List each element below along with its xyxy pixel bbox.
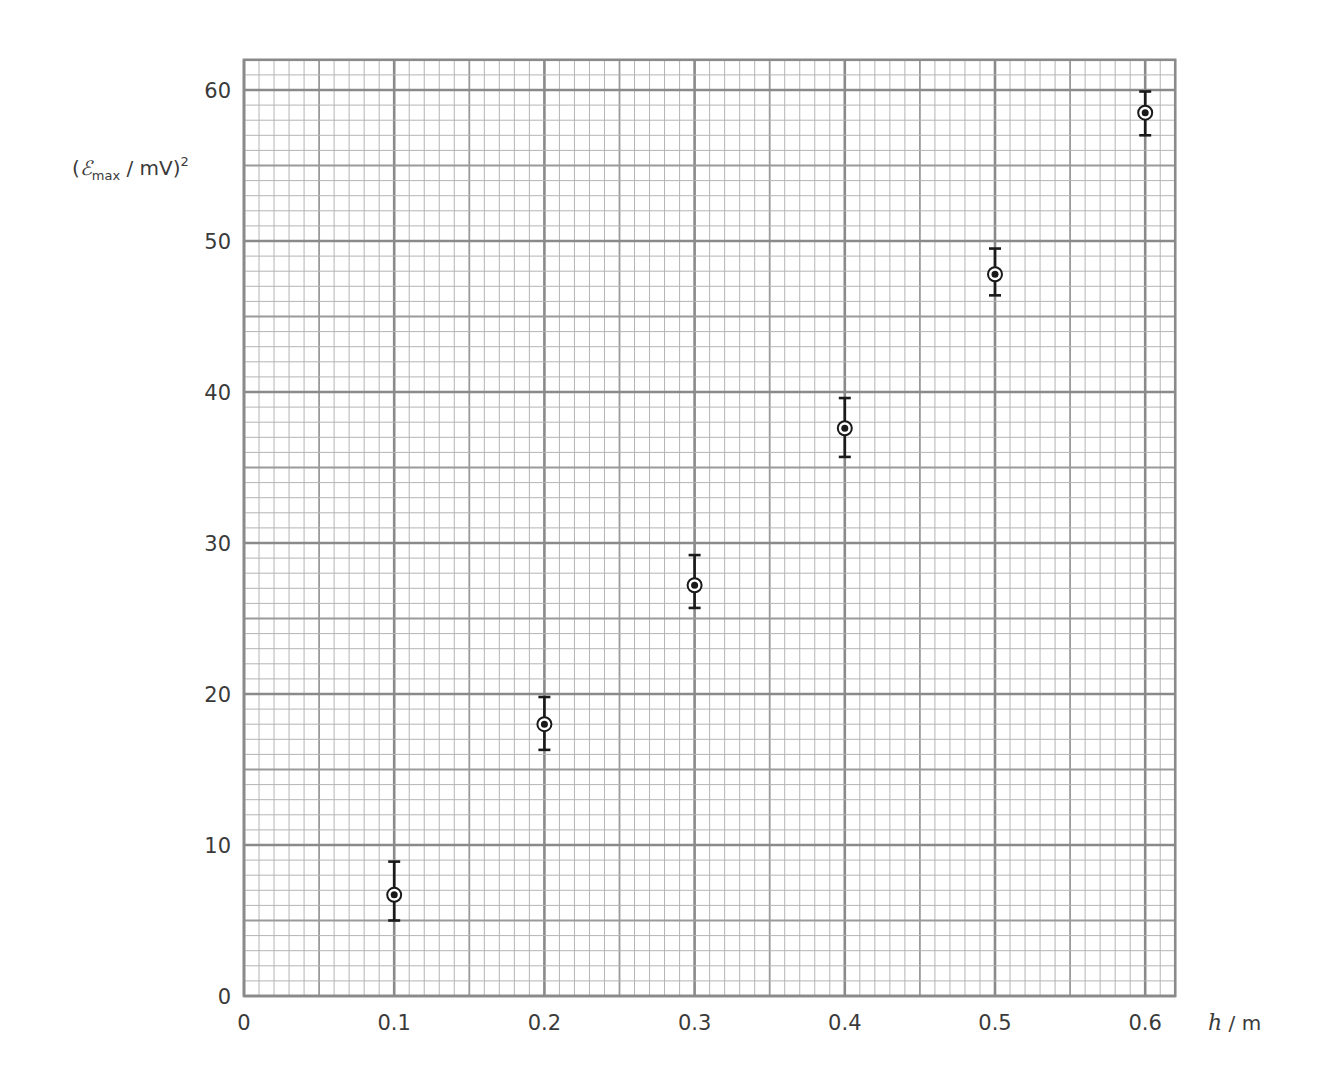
data-point [988,249,1002,296]
data-point [387,862,401,921]
x-tick-label: 0.4 [828,1011,861,1035]
marker-dot-icon [992,271,999,278]
x-tick-label: 0.5 [978,1011,1011,1035]
y-tick-label: 40 [204,381,231,405]
y-tick-label: 0 [218,985,231,1009]
y-tick-label: 10 [204,834,231,858]
x-tick-label: 0.6 [1128,1011,1161,1035]
y-tick-label: 20 [204,683,231,707]
y-tick-label: 60 [204,79,231,103]
y-tick-label: 30 [204,532,231,556]
marker-dot-icon [841,425,848,432]
x-tick-label: 0.1 [377,1011,410,1035]
x-tick-label: 0.2 [528,1011,561,1035]
graph-paper-grid [244,60,1175,996]
y-tick-label: 50 [204,230,231,254]
data-point [688,555,702,608]
y-axis-label: (ℰmax / mV)2 [72,154,189,183]
x-tick-label: 0.3 [678,1011,711,1035]
marker-dot-icon [391,891,398,898]
x-axis-ticks: 00.10.20.30.40.50.6 [237,1011,1162,1035]
y-axis-ticks: 0102030405060 [204,79,231,1009]
x-tick-label: 0 [237,1011,250,1035]
marker-dot-icon [691,582,698,589]
data-point [537,697,551,750]
chart: 00.10.20.30.40.50.6 0102030405060 (ℰmax … [0,0,1328,1077]
marker-dot-icon [1142,109,1149,116]
x-axis-label: h / m [1208,1010,1261,1035]
data-point [1138,92,1152,136]
marker-dot-icon [541,721,548,728]
